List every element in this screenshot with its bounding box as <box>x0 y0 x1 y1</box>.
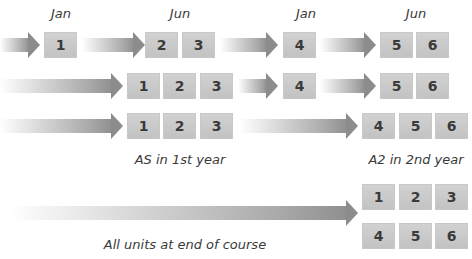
unit-box-4: 4 <box>283 32 316 58</box>
arrow-right-icon <box>220 32 278 58</box>
a2-second-year-label: A2 in 2nd year <box>368 152 463 167</box>
unit-box-2: 2 <box>399 184 432 210</box>
unit-box-4: 4 <box>362 113 395 139</box>
unit-box-1: 1 <box>362 184 395 210</box>
unit-box-3: 3 <box>182 32 215 58</box>
unit-box-1: 1 <box>127 73 160 99</box>
unit-box-6: 6 <box>416 32 449 58</box>
unit-box-5: 5 <box>399 223 432 249</box>
as-first-year-label: AS in 1st year <box>135 152 226 167</box>
unit-box-3: 3 <box>435 184 468 210</box>
arrow-right-icon <box>240 113 358 139</box>
unit-box-5: 5 <box>380 32 413 58</box>
unit-box-2: 2 <box>163 113 196 139</box>
month-header-jun: Jun <box>170 6 190 21</box>
arrow-right-icon <box>320 32 376 58</box>
arrow-right-icon <box>82 32 145 58</box>
unit-box-6: 6 <box>416 73 449 99</box>
unit-box-1: 1 <box>127 113 160 139</box>
all-units-end-label: All units at end of course <box>104 237 266 252</box>
unit-box-2: 2 <box>163 73 196 99</box>
unit-box-4: 4 <box>362 223 395 249</box>
unit-box-1: 1 <box>44 32 77 58</box>
arrow-right-icon <box>0 32 40 58</box>
arrow-right-icon <box>10 200 358 226</box>
unit-box-4: 4 <box>283 73 316 99</box>
arrow-right-icon <box>0 113 123 139</box>
unit-box-3: 3 <box>200 113 233 139</box>
unit-box-5: 5 <box>380 73 413 99</box>
month-header-jan: Jan <box>51 6 71 21</box>
arrow-right-icon <box>238 73 278 99</box>
unit-box-6: 6 <box>435 223 468 249</box>
arrow-right-icon <box>320 73 376 99</box>
month-header-jun: Jun <box>406 6 426 21</box>
month-header-jan: Jan <box>296 6 316 21</box>
unit-box-6: 6 <box>435 113 468 139</box>
unit-box-3: 3 <box>200 73 233 99</box>
unit-box-5: 5 <box>399 113 432 139</box>
arrow-right-icon <box>0 73 123 99</box>
unit-box-2: 2 <box>145 32 178 58</box>
